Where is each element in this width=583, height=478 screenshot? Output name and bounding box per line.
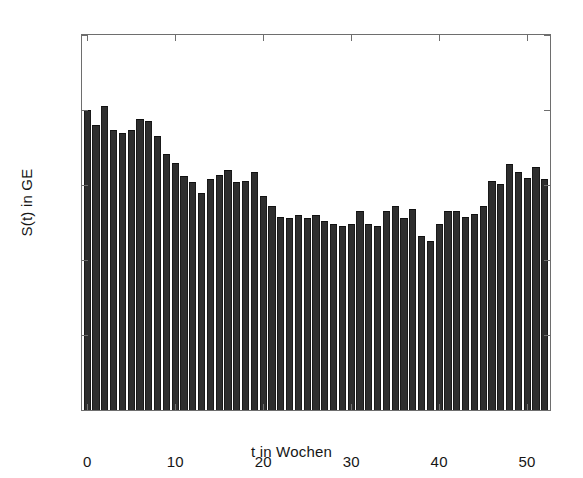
bar (515, 172, 522, 411)
bar (532, 167, 539, 410)
x-tick-mark (263, 404, 264, 410)
bar (189, 182, 196, 410)
bar (488, 181, 495, 411)
bar (180, 176, 187, 410)
x-tick-mark-top (175, 35, 176, 41)
bar (207, 179, 214, 410)
y-tick-mark-right (544, 35, 550, 36)
bar (400, 218, 407, 410)
bar (216, 175, 223, 411)
bar (312, 215, 319, 410)
bar (471, 214, 478, 411)
x-axis-label: t in Wochen (0, 443, 583, 460)
bar (277, 217, 284, 411)
bar (145, 121, 152, 411)
x-tick-mark (87, 404, 88, 410)
bar (374, 226, 381, 411)
bar (418, 236, 425, 410)
y-tick-mark (82, 260, 88, 261)
bar (295, 215, 302, 410)
bar (128, 130, 135, 411)
bar (339, 226, 346, 411)
bar (304, 218, 311, 410)
bar (427, 241, 434, 411)
bar (92, 125, 99, 410)
x-tick-mark (175, 404, 176, 410)
bar (119, 133, 126, 411)
bar (383, 211, 390, 411)
bar (462, 217, 469, 411)
bar (154, 136, 161, 411)
y-tick-mark-right (544, 335, 550, 336)
bar (506, 164, 513, 410)
bar (101, 106, 108, 411)
bar (260, 196, 267, 411)
bar (524, 178, 531, 411)
x-tick-mark (351, 404, 352, 410)
y-tick-mark (82, 110, 88, 111)
x-tick-mark (527, 404, 528, 410)
bar (444, 211, 451, 411)
bar (251, 172, 258, 411)
bar (268, 206, 275, 410)
y-tick-mark (82, 185, 88, 186)
x-tick-mark-top (527, 35, 528, 41)
bar (453, 211, 460, 411)
bar (198, 193, 205, 411)
bar (163, 154, 170, 411)
bar (541, 179, 548, 410)
plot-area: 05010015020025001020304050 (81, 34, 551, 411)
x-tick-mark-top (263, 35, 264, 41)
bar (330, 224, 337, 410)
bar (110, 130, 117, 411)
bar (286, 218, 293, 410)
bar (409, 209, 416, 410)
y-tick-mark-right (544, 110, 550, 111)
bar (172, 163, 179, 411)
bar (224, 170, 231, 410)
x-tick-mark-top (439, 35, 440, 41)
x-tick-mark-top (351, 35, 352, 41)
bar (242, 181, 249, 411)
bar (321, 221, 328, 410)
bar (365, 224, 372, 410)
bar (392, 206, 399, 410)
bar (136, 119, 143, 410)
y-tick-mark (82, 410, 88, 411)
y-tick-mark-right (544, 410, 550, 411)
chart-figure: 05010015020025001020304050 t in Wochen S… (0, 0, 583, 478)
bar (356, 211, 363, 411)
y-tick-mark-right (544, 185, 550, 186)
bar (233, 182, 240, 410)
y-tick-mark-right (544, 260, 550, 261)
bar (436, 224, 443, 410)
y-tick-mark (82, 335, 88, 336)
bar-series (82, 35, 550, 410)
bar (497, 184, 504, 411)
y-axis-label: S(t) in GE (18, 43, 35, 363)
x-tick-mark-top (87, 35, 88, 41)
x-tick-mark (439, 404, 440, 410)
bar (348, 224, 355, 410)
bar (480, 206, 487, 410)
